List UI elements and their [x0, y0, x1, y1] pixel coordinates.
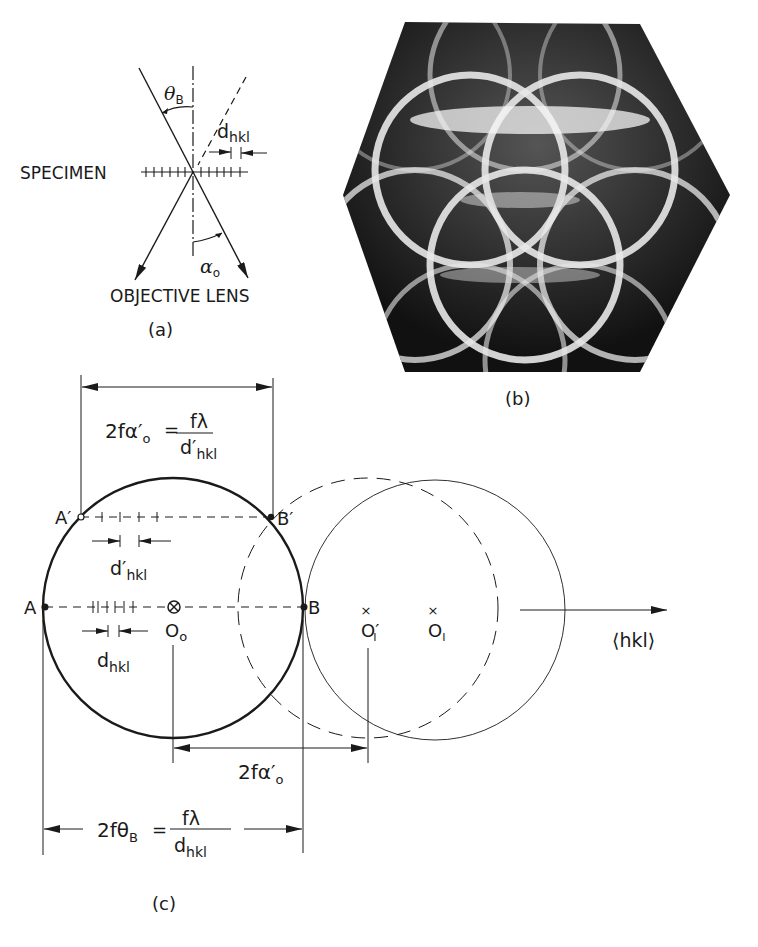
panel-c: 2fα′o = fλ d′hkl d′hkl	[24, 375, 667, 914]
bottom-formula-numerator: fλ	[182, 807, 200, 829]
mid-dim-label: 2fα′o	[238, 760, 284, 787]
top-formula: 2fα′o = fλ d′hkl	[105, 410, 217, 462]
panel-a: θB dhkl SPECIMEN αo OBJECTIVE LENS (a)	[20, 66, 267, 340]
theta-b-label: θB	[164, 82, 184, 107]
panel-b-caption: (b)	[505, 388, 530, 409]
bottom-formula-lhs: 2fθB	[97, 818, 138, 845]
objective-lens-label: OBJECTIVE LENS	[110, 286, 250, 306]
d-hkl-label-c: dhkl	[97, 649, 130, 675]
specimen-label: SPECIMEN	[20, 163, 107, 183]
panel-a-caption: (a)	[148, 319, 173, 340]
bottom-formula-denominator: dhkl	[174, 834, 207, 860]
figure: θB dhkl SPECIMEN αo OBJECTIVE LENS (a)	[0, 0, 758, 947]
label-o1: OI	[428, 620, 445, 644]
point-a-prime	[78, 514, 84, 520]
top-formula-eq: =	[164, 419, 179, 440]
top-formula-lhs: 2fα′o	[105, 419, 151, 446]
o0-center-symbol	[168, 601, 180, 613]
transmitted-ray	[135, 172, 193, 280]
hkl-axis-label: ⟨hkl⟩	[612, 629, 655, 651]
label-o1-prime: O′I	[361, 620, 379, 644]
point-a	[42, 604, 49, 611]
alpha-o-label: αo	[200, 255, 220, 280]
label-b-prime: B′	[277, 508, 293, 529]
panel-b: (b)	[320, 0, 735, 455]
d-prime-hkl-label: d′hkl	[110, 557, 147, 583]
bottom-formula-eq: =	[152, 819, 167, 840]
point-b-prime	[268, 514, 274, 520]
point-b	[301, 604, 308, 611]
panel-c-caption: (c)	[152, 893, 176, 914]
label-a-prime: A′	[55, 507, 71, 528]
top-formula-denominator: d′hkl	[180, 436, 217, 462]
label-a: A	[24, 597, 37, 618]
diffraction-pattern-image	[320, 0, 735, 455]
o1-cross: ×	[428, 603, 439, 618]
label-b: B	[308, 597, 320, 618]
bottom-formula: 2fθB = fλ dhkl	[97, 807, 231, 860]
a-ticks	[93, 601, 133, 613]
d-hkl-label: dhkl	[217, 120, 250, 145]
label-o0: Oo	[165, 620, 187, 644]
o1-prime-cross: ×	[361, 603, 372, 618]
theta-arc-arrowhead	[162, 108, 168, 114]
top-formula-numerator: fλ	[190, 410, 208, 432]
